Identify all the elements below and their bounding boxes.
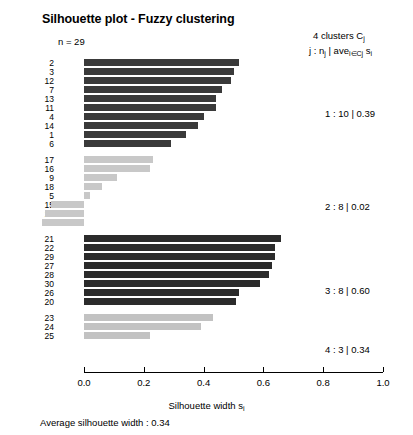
- silhouette-bar: [84, 104, 216, 111]
- silhouette-bar-row: 29: [0, 253, 413, 260]
- silhouette-bar-row: 24: [0, 323, 413, 330]
- silhouette-bar: [84, 113, 204, 120]
- silhouette-bar-row: 19: [0, 219, 413, 226]
- silhouette-bar: [84, 140, 171, 147]
- silhouette-bar: [84, 131, 186, 138]
- observation-label: 20: [28, 298, 54, 306]
- x-axis-tick-label: 0.6: [243, 377, 283, 388]
- silhouette-bar: [84, 253, 275, 260]
- silhouette-bar-row: 13: [0, 95, 413, 102]
- silhouette-bar: [84, 289, 239, 296]
- silhouette-bar-row: 28: [0, 271, 413, 278]
- silhouette-bar-row: 17: [0, 156, 413, 163]
- cluster-legend-entry: 4 : 3 | 0.34: [325, 344, 370, 355]
- x-axis-tick-label: 0.8: [303, 377, 343, 388]
- observation-label: 14: [28, 122, 54, 130]
- x-axis-tick-label: 0.0: [64, 377, 104, 388]
- observation-label: 17: [28, 156, 54, 164]
- observation-label: 5: [28, 192, 54, 200]
- silhouette-bar: [84, 59, 239, 66]
- observation-label: 13: [28, 95, 54, 103]
- observation-label: 24: [28, 323, 54, 331]
- cluster-legend-entry: 3 : 8 | 0.60: [325, 285, 370, 296]
- x-axis-tick: [144, 367, 145, 372]
- silhouette-plot: Silhouette plot - Fuzzy clustering n = 2…: [0, 0, 413, 435]
- silhouette-bar: [84, 332, 150, 339]
- silhouette-bar: [84, 122, 198, 129]
- silhouette-bar-row: 21: [0, 235, 413, 242]
- silhouette-bar-row: 20: [0, 298, 413, 305]
- silhouette-bar-row: 27: [0, 262, 413, 269]
- observation-label: 1: [28, 131, 54, 139]
- silhouette-bar: [42, 219, 84, 226]
- silhouette-bar-row: 22: [0, 244, 413, 251]
- silhouette-bar: [84, 192, 90, 199]
- silhouette-bar: [84, 68, 234, 75]
- silhouette-bar: [84, 95, 216, 102]
- cluster-legend-entry: 2 : 8 | 0.02: [325, 201, 370, 212]
- silhouette-bar: [84, 235, 281, 242]
- observation-label: 26: [28, 289, 54, 297]
- silhouette-bar: [84, 244, 275, 251]
- observation-label: 23: [28, 314, 54, 322]
- silhouette-bar: [84, 314, 213, 321]
- silhouette-bar-row: 14: [0, 122, 413, 129]
- x-axis-line: [84, 372, 383, 373]
- silhouette-bar-row: 7: [0, 86, 413, 93]
- x-axis-tick: [323, 367, 324, 372]
- observation-label: 25: [28, 332, 54, 340]
- silhouette-bar-row: 25: [0, 332, 413, 339]
- observation-label: 16: [28, 165, 54, 173]
- silhouette-bar-row: 5: [0, 192, 413, 199]
- observation-label: 18: [28, 183, 54, 191]
- silhouette-bar-row: 9: [0, 174, 413, 181]
- silhouette-bar-row: 2: [0, 59, 413, 66]
- x-axis-title-sub: i: [243, 405, 245, 412]
- silhouette-bar: [84, 262, 272, 269]
- x-axis-tick: [84, 367, 85, 372]
- bars-layer: 2312713114141617169185151019212229272830…: [0, 0, 413, 435]
- silhouette-bar: [84, 86, 222, 93]
- observation-label: 9: [28, 174, 54, 182]
- observation-label: 3: [28, 68, 54, 76]
- observation-label: 29: [28, 253, 54, 261]
- silhouette-bar-row: 6: [0, 140, 413, 147]
- silhouette-bar: [45, 210, 84, 217]
- observation-label: 4: [28, 113, 54, 121]
- silhouette-bar: [84, 156, 153, 163]
- observation-label: 6: [28, 140, 54, 148]
- silhouette-bar: [84, 271, 269, 278]
- x-axis-tick-label: 0.2: [124, 377, 164, 388]
- observation-label: 22: [28, 244, 54, 252]
- silhouette-bar: [84, 174, 117, 181]
- cluster-legend-entry: 1 : 10 | 0.39: [325, 108, 375, 119]
- silhouette-bar-row: 12: [0, 77, 413, 84]
- observation-label: 28: [28, 271, 54, 279]
- observation-label: 21: [28, 235, 54, 243]
- silhouette-bar-row: 18: [0, 183, 413, 190]
- observation-label: 2: [28, 59, 54, 67]
- x-axis-tick: [204, 367, 205, 372]
- observation-label: 11: [28, 104, 54, 112]
- x-axis-title-text: Silhouette width s: [168, 400, 242, 411]
- observation-label: 15: [28, 201, 54, 209]
- silhouette-bar: [84, 298, 236, 305]
- observation-label: 7: [28, 86, 54, 94]
- average-silhouette-footer: Average silhouette width : 0.34: [40, 417, 170, 428]
- silhouette-bar: [84, 323, 201, 330]
- silhouette-bar: [84, 280, 260, 287]
- x-axis-tick-label: 0.4: [184, 377, 224, 388]
- silhouette-bar-row: 1: [0, 131, 413, 138]
- x-axis-tick: [383, 367, 384, 372]
- x-axis-tick: [263, 367, 264, 372]
- observation-label: 27: [28, 262, 54, 270]
- silhouette-bar-row: 3: [0, 68, 413, 75]
- silhouette-bar: [51, 201, 84, 208]
- x-axis-title: Silhouette width si: [0, 400, 413, 411]
- silhouette-bar: [84, 77, 231, 84]
- x-axis-tick-label: 1.0: [363, 377, 403, 388]
- observation-label: 12: [28, 77, 54, 85]
- silhouette-bar: [84, 165, 150, 172]
- silhouette-bar-row: 16: [0, 165, 413, 172]
- silhouette-bar-row: 23: [0, 314, 413, 321]
